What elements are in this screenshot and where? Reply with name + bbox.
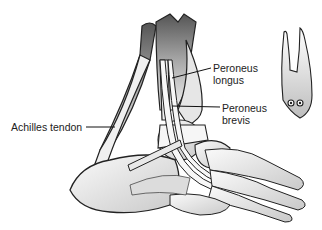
label-line: longus — [213, 74, 258, 86]
label-line: brevis — [222, 114, 267, 126]
ankle-drawing — [0, 0, 322, 230]
achilles-tendon — [92, 55, 150, 172]
label-line: Peroneus — [213, 62, 258, 74]
inset-cross-section — [282, 28, 312, 118]
ankle-illustration: Peroneus longus Peroneus brevis Achilles… — [0, 0, 322, 230]
label-achilles-tendon: Achilles tendon — [11, 121, 82, 133]
label-peroneus-brevis: Peroneus brevis — [222, 102, 267, 126]
label-peroneus-longus: Peroneus longus — [213, 62, 258, 86]
label-line: Peroneus — [222, 102, 267, 114]
